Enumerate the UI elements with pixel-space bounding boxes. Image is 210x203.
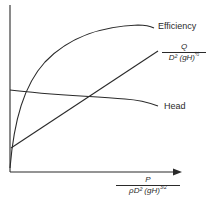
p-denominator: ρD² (gH)3/2 — [116, 186, 180, 195]
q-label: Q D² (gH)½ — [162, 43, 206, 62]
x-axis-arrow-icon — [173, 169, 182, 176]
q-denominator: D² (gH)½ — [162, 53, 206, 62]
head-curve — [10, 90, 158, 106]
q-line — [11, 51, 158, 148]
p-numerator: P — [116, 176, 180, 185]
efficiency-label: Efficiency — [158, 21, 196, 31]
q-numerator: Q — [162, 43, 206, 52]
head-label: Head — [164, 101, 186, 111]
p-label: P ρD² (gH)3/2 — [116, 176, 180, 195]
